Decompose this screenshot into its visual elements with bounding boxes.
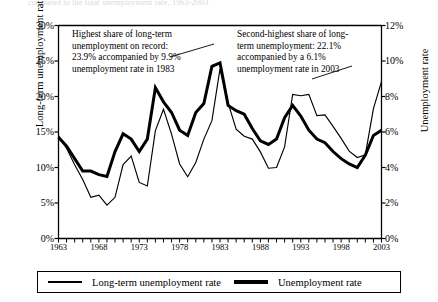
series-line-unemployment-rate [59,63,382,177]
chart-figure: compared to the total unemployment rate,… [0,0,438,302]
legend-item-long-term: Long-term unemployment rate [48,272,221,292]
legend-item-unemployment: Unemployment rate [234,272,362,292]
legend-swatch-thick-line-icon [234,280,268,284]
legend-label-long-term: Long-term unemployment rate [92,277,221,288]
chart-plot-area [0,0,438,302]
legend-swatch-thin-line-icon [48,281,82,282]
annotation-peak-2003: Second-highest share of long-term unempl… [237,29,357,75]
series-line-long-term-unemployment-rate [59,69,382,205]
chart-legend: Long-term unemployment rate Unemployment… [37,271,401,293]
annotation-peak-1983: Highest share of long-term unemployment … [72,29,187,75]
legend-label-unemployment: Unemployment rate [278,277,362,288]
